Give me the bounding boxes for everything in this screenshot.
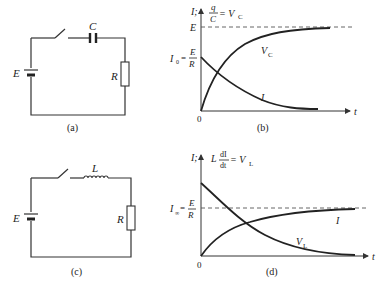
- graph-rl: I; L dI dt = V L I ∞ = E R I V L t 0 (d): [169, 150, 375, 278]
- x-axis-label: t: [372, 251, 375, 262]
- curve-i-rise: [201, 209, 355, 256]
- capacitor-label: C: [89, 20, 97, 32]
- resistor-icon: [127, 206, 135, 230]
- asymptote-label-I: I: [169, 203, 174, 214]
- y-axis-label-I: I;: [190, 152, 198, 163]
- caption-b: (b): [257, 122, 269, 134]
- curve-vc: [201, 28, 330, 111]
- curve-label-i: I: [260, 92, 265, 103]
- asymptote-frac-den: R: [187, 210, 194, 220]
- asymptote-label: E: [189, 22, 196, 33]
- caption-c: (c): [71, 266, 82, 278]
- y-axis-sub: C: [238, 13, 243, 21]
- caption-a: (a): [67, 122, 78, 134]
- y-axis-frac-den: dt: [220, 161, 227, 170]
- caption-d: (d): [266, 266, 278, 278]
- source-label: E: [12, 67, 20, 79]
- y-axis-label-I: I;: [190, 6, 198, 17]
- graph-rc: I; q C = V C E I 0 = E R V C I t 0 (b): [169, 2, 357, 134]
- battery-icon: [24, 70, 38, 75]
- curve-i-decay: [201, 57, 318, 109]
- resistor-label: R: [110, 70, 118, 82]
- y-axis-rest: = V: [219, 8, 236, 19]
- origin-label: 0: [197, 260, 202, 270]
- source-label: E: [12, 212, 20, 224]
- asymptote-label-sub: ∞: [175, 210, 179, 216]
- capacitor-icon: [90, 33, 96, 43]
- circuit-rc: E C R (a): [12, 20, 129, 134]
- x-axis-label: t: [354, 106, 357, 117]
- wire-top-right: [97, 38, 125, 62]
- y-axis-frac-num: q: [211, 2, 216, 12]
- curve-label-vl-sub: L: [303, 242, 307, 250]
- circuit-rl: E L R (c): [12, 162, 135, 278]
- battery-icon: [24, 214, 38, 219]
- inductor-icon: [84, 176, 108, 178]
- asymptote-label-eq: =: [180, 203, 185, 213]
- wire-left-bottom: [31, 221, 131, 257]
- initial-label-sub: 0: [176, 59, 179, 65]
- wire-top-right: [108, 178, 131, 206]
- curve-vl-decay: [201, 183, 355, 255]
- curve-label-i: I: [335, 215, 340, 226]
- y-axis-frac-den: C: [210, 14, 217, 24]
- switch-icon: [58, 169, 68, 178]
- inductor-label: L: [91, 162, 98, 174]
- initial-label-eq: =: [181, 53, 186, 63]
- wire-left-bottom: [31, 77, 125, 115]
- curve-label-vc-sub: C: [268, 51, 273, 59]
- figure-canvas: E C R (a) I; q C = V C E I 0 = E R V C I…: [0, 0, 387, 287]
- initial-label-I: I: [169, 53, 174, 64]
- origin-label: 0: [197, 114, 202, 124]
- switch-icon: [55, 29, 65, 38]
- resistor-icon: [121, 62, 129, 86]
- y-axis-label-L: L: [210, 153, 217, 164]
- initial-frac-den: R: [188, 59, 195, 69]
- y-axis-sub: L: [249, 160, 253, 168]
- resistor-label: R: [116, 213, 124, 225]
- y-axis-frac-num: dI: [220, 150, 227, 159]
- initial-frac-num: E: [189, 47, 196, 57]
- y-axis-rest: = V: [230, 154, 247, 165]
- asymptote-frac-num: E: [188, 198, 195, 208]
